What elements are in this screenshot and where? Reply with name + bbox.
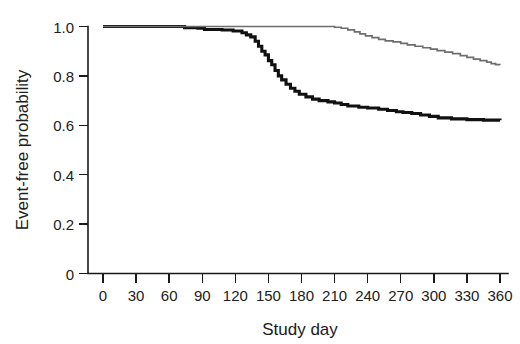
x-tick-label: 210 xyxy=(322,287,347,304)
x-tick-label: 270 xyxy=(388,287,413,304)
x-tick-label: 60 xyxy=(161,287,178,304)
y-tick-label: 0.4 xyxy=(53,167,74,184)
y-tick-label: 0 xyxy=(66,266,74,283)
y-tick-label: 0.8 xyxy=(53,68,74,85)
x-tick-label: 30 xyxy=(128,287,145,304)
y-tick-label: 0.6 xyxy=(53,117,74,134)
y-axis-title: Event-free probability xyxy=(13,69,32,230)
x-tick-label: 240 xyxy=(355,287,380,304)
y-tick-label: 0.2 xyxy=(53,216,74,233)
axes: 0306090120150180210240270300330360 00.20… xyxy=(53,19,512,304)
axis-lines xyxy=(88,27,508,274)
chart-canvas: 0306090120150180210240270300330360 00.20… xyxy=(0,0,520,344)
x-tick-label: 180 xyxy=(289,287,314,304)
x-tick-label: 360 xyxy=(487,287,512,304)
x-tick-label: 330 xyxy=(454,287,479,304)
x-tick-label: 0 xyxy=(99,287,107,304)
x-axis-title: Study day xyxy=(262,320,338,339)
km-curve-gray-curve xyxy=(103,27,500,65)
y-axis-ticks: 00.20.40.60.81.0 xyxy=(53,19,88,283)
km-curves xyxy=(103,27,500,121)
x-axis-ticks: 0306090120150180210240270300330360 xyxy=(99,274,513,304)
km-curve-black-curve xyxy=(103,27,500,121)
y-tick-label: 1.0 xyxy=(53,19,74,36)
x-tick-label: 120 xyxy=(223,287,248,304)
x-tick-label: 90 xyxy=(194,287,211,304)
kaplan-meier-figure: 0306090120150180210240270300330360 00.20… xyxy=(0,0,520,344)
x-tick-label: 150 xyxy=(256,287,281,304)
x-tick-label: 300 xyxy=(421,287,446,304)
